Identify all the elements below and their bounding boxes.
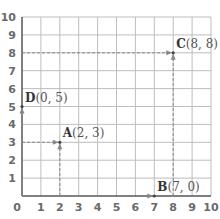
point-label-B: B(7, 0) <box>157 180 199 194</box>
y-tick-label: 1 <box>8 172 16 185</box>
x-tick-label: 8 <box>169 201 177 214</box>
y-tick-label: 4 <box>8 118 16 131</box>
x-tick-label: 3 <box>75 201 83 214</box>
y-tick-label: 6 <box>8 83 16 96</box>
point-A <box>58 141 61 144</box>
x-tick-label: 6 <box>132 201 140 214</box>
y-tick-label: 5 <box>8 101 16 114</box>
x-tick-label: 9 <box>188 201 196 214</box>
y-tick-label: 2 <box>8 154 16 167</box>
coordinate-plane: 01234567891012345678910 A(2, 3)B(7, 0)C(… <box>0 0 220 219</box>
x-tick-label: 10 <box>203 201 219 214</box>
x-tick-label: 5 <box>113 201 121 214</box>
x-tick-label: 7 <box>150 201 158 214</box>
arrow-head-icon <box>57 143 62 149</box>
arrow-head-icon <box>171 54 176 60</box>
x-tick-label: 2 <box>56 201 64 214</box>
y-tick-label: 9 <box>8 29 16 42</box>
point-label-D: D(0, 5) <box>25 91 68 105</box>
y-tick-label: 10 <box>1 11 17 24</box>
point-label-A: A(2, 3) <box>62 126 105 140</box>
y-tick-label: 3 <box>8 136 16 149</box>
arrow-head-icon <box>147 194 153 199</box>
point-C <box>172 51 175 54</box>
arrow-head-icon <box>166 50 172 55</box>
y-tick-label: 7 <box>8 65 16 78</box>
arrow-head-icon <box>20 108 25 114</box>
data-points: A(2, 3)B(7, 0)C(8, 8)D(0, 5) <box>20 37 218 198</box>
x-tick-label: 4 <box>94 201 102 214</box>
x-tick-label: 0 <box>13 201 21 214</box>
point-label-C: C(8, 8) <box>176 37 218 51</box>
point-B <box>153 194 156 197</box>
y-tick-label: 8 <box>8 47 16 60</box>
point-D <box>20 105 23 108</box>
arrow-head-icon <box>53 140 59 145</box>
x-tick-label: 1 <box>37 201 45 214</box>
